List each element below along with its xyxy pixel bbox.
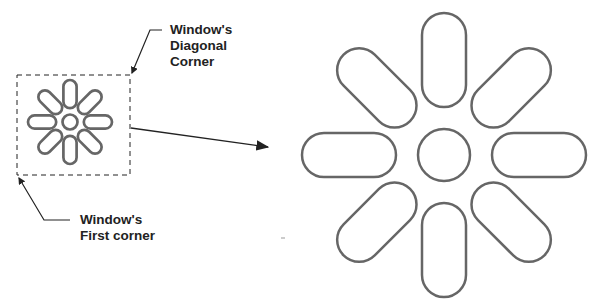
diagonal-corner-label: Window's Diagonal Corner <box>170 22 232 70</box>
first-corner-label: Window's First corner <box>80 212 155 244</box>
center-circle <box>418 129 470 181</box>
diagram-canvas <box>0 0 601 305</box>
first-corner-leader <box>19 178 70 220</box>
large-flower-figure <box>302 13 586 297</box>
zoom-arrow <box>131 128 268 147</box>
diagonal-corner-leader <box>132 30 162 73</box>
small-flower-figure <box>28 80 112 164</box>
selection-window <box>17 75 130 175</box>
